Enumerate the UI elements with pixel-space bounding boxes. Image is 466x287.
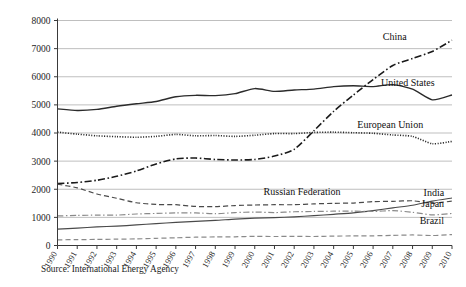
x-tick-label: 2008 bbox=[397, 250, 414, 270]
x-tick-label: 2001 bbox=[259, 250, 276, 270]
x-axis-tick-marks bbox=[58, 246, 453, 250]
series-label-china: China bbox=[383, 31, 407, 42]
x-tick-label: 2010 bbox=[436, 250, 453, 270]
series-line-brazil bbox=[58, 235, 453, 240]
series-label-united-states: United States bbox=[381, 77, 435, 88]
x-tick-label: 2005 bbox=[338, 250, 355, 270]
series-inline-labels: ChinaUnited StatesEuropean UnionRussian … bbox=[264, 31, 445, 226]
series-label-india: India bbox=[424, 187, 445, 198]
x-tick-label: 2000 bbox=[239, 250, 256, 270]
x-tick-label: 2003 bbox=[298, 250, 315, 270]
x-tick-label: 1998 bbox=[200, 250, 217, 270]
x-tick-label: 2004 bbox=[318, 249, 336, 269]
chart-canvas: 010002000300040005000600070008000 199019… bbox=[0, 0, 466, 287]
y-tick-label: 7000 bbox=[32, 44, 51, 54]
series-label-brazil: Brazil bbox=[420, 215, 445, 226]
series-label-european-union: European Union bbox=[357, 119, 423, 130]
y-axis-tick-labels: 010002000300040005000600070008000 bbox=[32, 16, 51, 251]
x-tick-label: 2002 bbox=[279, 250, 296, 270]
source-note: Source: International Energy Agency bbox=[41, 264, 179, 274]
y-tick-label: 5000 bbox=[32, 100, 51, 110]
x-tick-label: 2007 bbox=[377, 249, 395, 269]
x-tick-label: 1997 bbox=[180, 249, 198, 269]
series-line-china bbox=[58, 40, 453, 183]
series-label-japan: Japan bbox=[421, 198, 444, 209]
y-tick-label: 1000 bbox=[32, 213, 51, 223]
series-line-european-union bbox=[58, 132, 453, 144]
series-line-russian-federation bbox=[58, 184, 453, 207]
y-axis-tick-marks bbox=[54, 21, 58, 246]
y-tick-label: 2000 bbox=[32, 185, 51, 195]
y-tick-label: 8000 bbox=[32, 16, 51, 26]
x-tick-label: 1999 bbox=[220, 250, 237, 270]
y-tick-label: 4000 bbox=[32, 128, 51, 138]
series-line-united-states bbox=[58, 85, 453, 111]
y-tick-label: 3000 bbox=[32, 157, 51, 167]
series-line-japan bbox=[58, 211, 453, 216]
energy-consumption-chart: 010002000300040005000600070008000 199019… bbox=[0, 0, 466, 287]
x-tick-label: 2009 bbox=[417, 250, 434, 270]
data-series-lines bbox=[58, 40, 453, 240]
y-tick-label: 6000 bbox=[32, 72, 51, 82]
series-line-india bbox=[58, 198, 453, 229]
x-tick-label: 2006 bbox=[358, 249, 376, 269]
series-label-russian-federation: Russian Federation bbox=[264, 186, 341, 197]
